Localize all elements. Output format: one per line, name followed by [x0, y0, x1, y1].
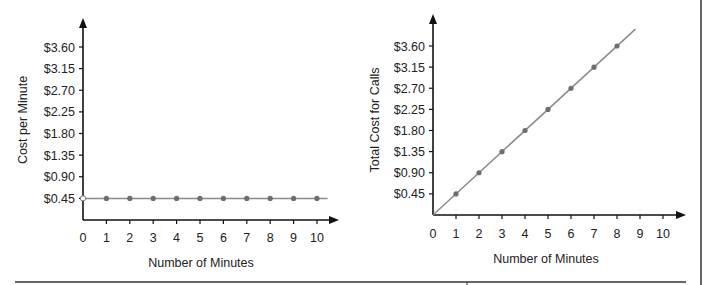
y-tick-label: $1.35 — [44, 149, 75, 163]
data-point — [522, 128, 527, 133]
data-point — [291, 196, 296, 201]
y-tick-label: $2.25 — [394, 103, 425, 117]
chart-total-cost: $0.45$0.90$1.35$1.80$2.25$2.70$3.15$3.60… — [368, 14, 686, 266]
data-point — [476, 170, 481, 175]
x-tick-label: 4 — [522, 227, 529, 241]
y-tick-label: $3.15 — [44, 62, 75, 76]
y-tick-label: $0.90 — [394, 166, 425, 180]
x-tick-label: 9 — [637, 227, 644, 241]
data-point — [221, 196, 226, 201]
y-tick-label: $3.60 — [44, 41, 75, 55]
x-tick-label: 8 — [267, 231, 274, 245]
x-tick-label: 3 — [499, 227, 506, 241]
y-tick-label: $1.80 — [44, 127, 75, 141]
y-tick-label: $2.70 — [394, 82, 425, 96]
x-tick-label: 7 — [591, 227, 598, 241]
x-tick-label: 4 — [173, 231, 180, 245]
series-line — [433, 29, 635, 215]
x-axis-label: Number of Minutes — [493, 252, 599, 266]
x-axis-label: Number of Minutes — [148, 256, 254, 270]
y-tick-label: $0.90 — [44, 170, 75, 184]
y-tick-label: $2.25 — [44, 105, 75, 119]
x-tick-label: 6 — [568, 227, 575, 241]
x-tick-label: 5 — [545, 227, 552, 241]
x-tick-label: 1 — [453, 227, 460, 241]
data-point — [545, 107, 550, 112]
x-tick-label: 6 — [220, 231, 227, 245]
data-point — [104, 196, 109, 201]
data-point — [314, 196, 319, 201]
y-tick-label: $3.15 — [394, 61, 425, 75]
x-tick-label: 3 — [150, 231, 157, 245]
open-data-point — [80, 196, 85, 201]
x-tick-label: 0 — [80, 231, 87, 245]
y-tick-label: $1.35 — [394, 145, 425, 159]
x-axis-arrow-icon — [329, 216, 339, 224]
x-tick-label: 10 — [310, 231, 324, 245]
x-tick-label: 2 — [126, 231, 133, 245]
data-point — [197, 196, 202, 201]
data-point — [268, 196, 273, 201]
data-point — [591, 65, 596, 70]
y-axis-label: Total Cost for Calls — [368, 68, 382, 173]
x-tick-label: 8 — [614, 227, 621, 241]
y-axis-arrow-icon — [429, 14, 437, 24]
data-point — [453, 191, 458, 196]
x-tick-label: 10 — [656, 227, 670, 241]
y-axis-label: Cost per Minute — [16, 76, 30, 164]
y-tick-label: $3.60 — [394, 40, 425, 54]
y-tick-label: $1.80 — [394, 124, 425, 138]
y-tick-label: $0.45 — [394, 187, 425, 201]
y-tick-label: $2.70 — [44, 84, 75, 98]
chart-canvas: $0.45$0.90$1.35$1.80$2.25$2.70$3.15$3.60… — [0, 0, 703, 285]
data-point — [244, 196, 249, 201]
data-point — [174, 196, 179, 201]
x-tick-label: 9 — [290, 231, 297, 245]
y-axis-arrow-icon — [79, 18, 87, 28]
x-tick-label: 0 — [430, 227, 437, 241]
data-point — [568, 86, 573, 91]
x-tick-label: 7 — [243, 231, 250, 245]
x-tick-label: 1 — [103, 231, 110, 245]
x-tick-label: 2 — [476, 227, 483, 241]
data-point — [151, 196, 156, 201]
data-point — [614, 43, 619, 48]
x-tick-label: 5 — [197, 231, 204, 245]
y-tick-label: $0.45 — [44, 192, 75, 206]
data-point — [127, 196, 132, 201]
data-point — [499, 149, 504, 154]
chart-cost-per-minute: $0.45$0.90$1.35$1.80$2.25$2.70$3.15$3.60… — [16, 18, 339, 270]
x-axis-arrow-icon — [676, 211, 686, 219]
